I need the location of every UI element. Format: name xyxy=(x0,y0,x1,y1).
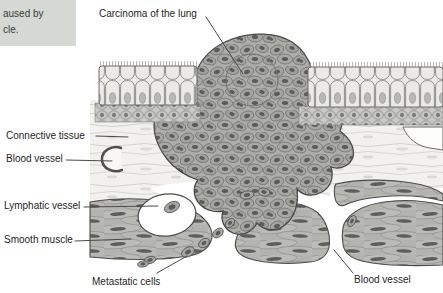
epithelium-right xyxy=(308,67,443,107)
smooth-muscle-right-mound xyxy=(342,201,443,266)
label-lymphatic-vessel: Lymphatic vessel xyxy=(4,200,80,211)
label-carcinoma: Carcinoma of the lung xyxy=(99,8,197,19)
blood-vessel-left-shape xyxy=(102,147,122,171)
caption-line-1: aused by xyxy=(3,6,76,22)
label-blood-vessel-right: Blood vessel xyxy=(354,274,411,285)
caption-box: aused by cle. xyxy=(0,0,76,46)
label-blood-vessel-left: Blood vessel xyxy=(6,153,63,164)
label-connective-tissue: Connective tissue xyxy=(6,130,85,141)
basal-cells-left xyxy=(95,103,200,122)
epithelium-left xyxy=(99,66,197,105)
figure-region: aused by cle. Carcinoma of the lung Conn… xyxy=(0,0,443,293)
label-metastatic-cells: Metastatic cells xyxy=(92,276,160,287)
caption-line-2: cle. xyxy=(3,22,76,38)
basal-cells-right xyxy=(299,106,443,125)
label-smooth-muscle: Smooth muscle xyxy=(4,234,73,245)
